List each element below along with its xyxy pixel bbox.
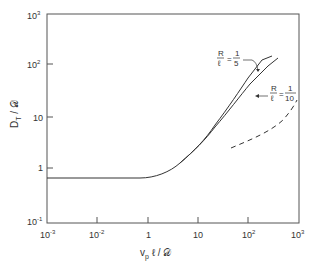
y-ticks xyxy=(47,64,53,168)
svg-text:R: R xyxy=(271,84,277,93)
curve-r-l-1-10 xyxy=(180,58,278,163)
x-axis-title: vp ℓ / 𝒟 xyxy=(140,247,171,261)
svg-text:10: 10 xyxy=(285,94,294,103)
svg-text:1: 1 xyxy=(146,230,151,240)
svg-text:=: = xyxy=(279,90,284,99)
svg-text:ℓ: ℓ xyxy=(270,94,274,103)
svg-text:103: 103 xyxy=(291,229,305,240)
svg-text:1: 1 xyxy=(288,84,293,93)
annotation-r-l-1-5: R ℓ = 1 5 xyxy=(217,49,260,72)
curve-r-l-1-5 xyxy=(47,56,272,178)
curve-dashed xyxy=(231,100,297,148)
svg-text:103: 103 xyxy=(27,10,41,21)
svg-text:10-1: 10-1 xyxy=(27,216,43,227)
svg-text:5: 5 xyxy=(234,59,239,68)
svg-text:1: 1 xyxy=(235,49,240,58)
svg-text:1: 1 xyxy=(38,163,43,173)
annotation-r-l-1-10: R ℓ = 1 10 xyxy=(255,84,296,103)
x-ticks xyxy=(97,217,248,223)
y-axis-title: DT / 𝒟 xyxy=(9,100,22,128)
y-tick-labels: 103 102 10 1 10-1 xyxy=(27,10,43,227)
svg-text:=: = xyxy=(227,55,232,64)
svg-text:10: 10 xyxy=(33,113,43,123)
log-log-chart: 103 102 10 1 10-1 10-3 10-2 1 10 102 103… xyxy=(0,0,313,268)
svg-text:10-3: 10-3 xyxy=(40,229,56,240)
svg-text:10: 10 xyxy=(193,230,203,240)
svg-text:10-2: 10-2 xyxy=(89,229,105,240)
svg-text:102: 102 xyxy=(242,229,256,240)
svg-text:102: 102 xyxy=(27,59,41,70)
x-tick-labels: 10-3 10-2 1 10 102 103 xyxy=(40,229,305,240)
svg-text:ℓ: ℓ xyxy=(217,59,221,68)
svg-text:R: R xyxy=(218,49,224,58)
plot-frame xyxy=(47,14,299,223)
